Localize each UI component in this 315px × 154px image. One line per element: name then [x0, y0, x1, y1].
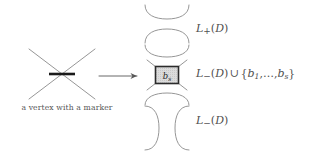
- set-first-base: b: [248, 67, 255, 80]
- vertex-caption: a vertex with a marker: [8, 103, 126, 112]
- arc-bottom: [145, 29, 189, 43]
- arc-top: [145, 45, 189, 57]
- corner-stub-br: [178, 83, 187, 90]
- set-ellipsis: ,…,: [259, 67, 277, 80]
- corner-stub-tr: [178, 60, 187, 67]
- label-l-plus-arg: D: [215, 22, 224, 35]
- figure-canvas: a vertex with a marker: [0, 0, 315, 154]
- arrow-icon: [98, 66, 144, 86]
- label-l-minus-union-b: L−(D)∪{b1,…,bs}: [196, 67, 295, 81]
- set-open-brace: {: [241, 67, 248, 80]
- vertical-arcs-svg: [142, 104, 192, 152]
- label-mixed-arg: D: [215, 67, 224, 80]
- label-l-plus-subscript: +: [203, 26, 211, 36]
- state-diagram-l-minus: [142, 104, 192, 152]
- arc-top: [145, 5, 189, 19]
- arc-right: [175, 106, 189, 150]
- union-operator: ∪: [228, 67, 240, 80]
- arc-left: [145, 106, 159, 150]
- label-l-minus: L−(D): [196, 114, 228, 128]
- vertex-svg: [26, 46, 98, 102]
- boxed-arcs-svg: bs: [142, 44, 192, 106]
- horizontal-arcs-svg: [142, 2, 192, 46]
- state-diagram-l-plus: [142, 2, 192, 46]
- label-l-plus: L+(D): [196, 22, 228, 36]
- transformation-arrow: [98, 66, 144, 86]
- label-mixed-subscript: −: [203, 71, 211, 81]
- state-diagram-l-minus-union-b: bs: [142, 44, 192, 106]
- set-close-brace: }: [288, 67, 295, 80]
- corner-stub-tl: [147, 60, 156, 67]
- vertex-with-marker-diagram: [26, 46, 98, 102]
- label-l-minus-arg: D: [215, 114, 224, 127]
- corner-stub-bl: [147, 83, 156, 90]
- label-l-minus-subscript: −: [203, 118, 211, 128]
